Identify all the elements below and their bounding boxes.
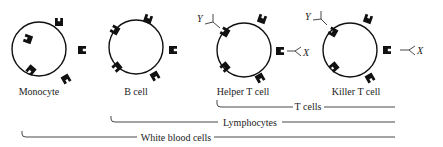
antigen-y-label-helper: Y: [197, 13, 204, 24]
bracket-t-cells: T cells: [217, 100, 395, 112]
receptor-icon: [23, 18, 86, 84]
cell-label-helper-t: Helper T cell: [217, 86, 270, 97]
receptor-icon: [110, 14, 177, 82]
cell-label-b-cell: B cell: [124, 86, 148, 97]
monocyte-cell: [12, 18, 86, 84]
antigen-x-icon: [400, 46, 415, 55]
cell-label-monocyte: Monocyte: [19, 86, 60, 97]
antigen-y-icon: [313, 11, 327, 25]
bracket-white-blood-cells: White blood cells: [22, 131, 395, 143]
antigen-x-icon: [287, 47, 301, 56]
antigen-x-label-killer: X: [416, 45, 424, 56]
group-label-lymphocytes: Lymphocytes: [223, 117, 277, 128]
b-cell: [109, 14, 177, 82]
group-label-t-cells: T cells: [295, 101, 322, 112]
helper-t-cell: [205, 14, 301, 84]
antigen-y-label-killer: Y: [305, 11, 312, 22]
cell-label-killer-t: Killer T cell: [332, 86, 381, 97]
bracket-lymphocytes: Lymphocytes: [111, 116, 395, 128]
killer-t-cell: [313, 11, 415, 83]
cell-classification-diagram: Y X Y X Monocyte B cell Helper T cell Ki…: [0, 0, 443, 147]
group-label-white-blood-cells: White blood cells: [141, 132, 212, 143]
antigen-x-label-helper: X: [302, 47, 310, 58]
antigen-y-icon: [205, 14, 220, 28]
